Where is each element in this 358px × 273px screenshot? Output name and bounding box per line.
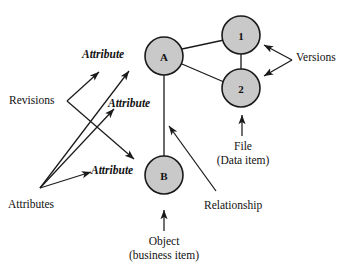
node-version-1-label: 1 — [238, 30, 244, 42]
file-caption: File (Data item) — [200, 139, 286, 167]
node-version-2-label: 2 — [238, 83, 244, 95]
versions-arrow-upper — [264, 45, 292, 60]
file-caption-line-1: File — [200, 139, 286, 153]
relationship-label: Relationship — [204, 199, 262, 211]
attribute-label-bottom: Attribute — [91, 164, 133, 176]
attribute-label-middle: Attribute — [108, 97, 150, 109]
node-a[interactable]: A — [145, 37, 183, 75]
node-b-label: B — [160, 170, 168, 182]
edge-a-to-v2 — [182, 64, 224, 82]
revisions-label: Revisions — [9, 94, 54, 106]
diagram-graphics: A B 1 2 — [0, 0, 358, 273]
file-caption-line-2: (Data item) — [200, 153, 286, 167]
object-caption-line-1: Object — [112, 234, 216, 248]
node-b[interactable]: B — [145, 156, 183, 194]
edge-a-to-v1 — [182, 40, 224, 49]
node-a-label: A — [160, 51, 168, 63]
node-group: A B 1 2 — [145, 16, 260, 194]
revisions-arrow-upper — [67, 72, 99, 101]
revisions-arrow-lower — [67, 101, 134, 159]
attributes-label: Attributes — [8, 198, 54, 210]
attribute-label-top: Attribute — [82, 48, 124, 60]
diagram-canvas: A B 1 2 — [0, 0, 358, 273]
versions-label: Versions — [296, 51, 336, 63]
versions-arrow-lower — [264, 60, 292, 76]
object-caption: Object (business item) — [112, 234, 216, 262]
node-version-2[interactable]: 2 — [222, 69, 260, 107]
node-version-1[interactable]: 1 — [222, 16, 260, 54]
object-caption-line-2: (business item) — [112, 248, 216, 262]
